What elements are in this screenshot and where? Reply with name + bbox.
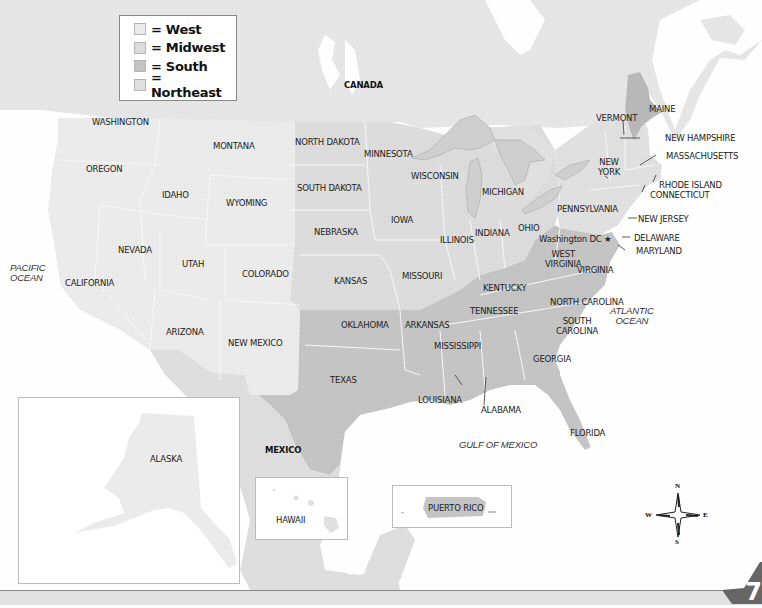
label-alaska: ALASKA (150, 454, 182, 464)
label-canada: CANADA (344, 80, 383, 90)
compass-n: N (675, 482, 680, 490)
label-new-york-line1: NEW (598, 157, 620, 167)
label-kansas: KANSAS (334, 276, 367, 286)
label-delaware: DELAWARE (634, 233, 680, 243)
legend-label: = West (151, 22, 201, 37)
label-virginia: VIRGINIA (577, 265, 613, 275)
label-missouri: MISSOURI (402, 271, 442, 281)
legend-swatch-midwest (134, 42, 146, 54)
label-south-carolina-line2: CAROLINA (556, 326, 598, 336)
label-vermont: VERMONT (596, 113, 637, 123)
label-iowa: IOWA (391, 215, 413, 225)
legend-swatch-south (134, 60, 146, 72)
label-rhode-island: RHODE ISLAND (659, 180, 722, 190)
label-north-carolina: NORTH CAROLINA (550, 297, 624, 307)
label-atlantic-ocean: ATLANTIC OCEAN (610, 306, 654, 326)
legend-swatch-west (134, 23, 146, 35)
compass-s: S (675, 538, 679, 546)
label-arkansas: ARKANSAS (405, 320, 449, 330)
alaska-shape (19, 398, 241, 585)
legend-item-midwest: = Midwest (134, 39, 236, 58)
label-alabama: ALABAMA (481, 405, 521, 415)
label-north-dakota: NORTH DAKOTA (295, 137, 360, 147)
label-oregon: OREGON (86, 164, 122, 174)
label-utah: UTAH (182, 259, 204, 269)
label-oklahoma: OKLAHOMA (341, 320, 389, 330)
label-south-carolina: SOUTH CAROLINA (556, 316, 598, 336)
label-georgia: GEORGIA (533, 354, 571, 364)
label-colorado: COLORADO (242, 269, 289, 279)
label-kentucky: KENTUCKY (483, 283, 527, 293)
legend-swatch-northeast (134, 79, 146, 91)
label-pacific-line2: OCEAN (10, 273, 45, 283)
label-new-mexico: NEW MEXICO (228, 338, 283, 348)
label-mississippi: MISSISSIPPI (434, 341, 481, 351)
label-west-virginia-line1: WEST (545, 249, 581, 259)
label-south-dakota: SOUTH DAKOTA (297, 183, 362, 193)
label-mexico: MEXICO (265, 445, 301, 455)
label-south-carolina-line1: SOUTH (556, 316, 598, 326)
label-nebraska: NEBRASKA (314, 227, 358, 237)
label-connecticut: CONNECTICUT (650, 190, 710, 200)
label-minnesota: MINNESOTA (364, 149, 413, 159)
label-texas: TEXAS (330, 375, 357, 385)
label-puerto-rico: PUERTO RICO (428, 503, 483, 513)
label-maryland: MARYLAND (636, 246, 682, 256)
label-illinois: ILLINOIS (440, 235, 474, 245)
label-washington-dc: Washington DC ★ (539, 234, 611, 244)
label-idaho: IDAHO (162, 190, 189, 200)
alaska-inset (18, 397, 240, 584)
label-tennessee: TENNESSEE (470, 306, 518, 316)
label-ohio: OHIO (518, 223, 539, 233)
label-atlantic-line2: OCEAN (610, 316, 654, 326)
label-pennsylvania: PENNSYLVANIA (557, 204, 618, 214)
label-gulf-of-mexico: GULF OF MEXICO (459, 440, 537, 450)
hawaii-inset (255, 477, 348, 540)
bottom-band (0, 590, 762, 605)
label-wyoming: WYOMING (226, 198, 267, 208)
label-nevada: NEVADA (118, 245, 152, 255)
compass-w: W (645, 511, 652, 519)
label-louisiana: LOUISIANA (418, 395, 462, 405)
label-wisconsin: WISCONSIN (411, 171, 459, 181)
compass-icon (648, 485, 708, 545)
label-new-jersey: NEW JERSEY (638, 214, 689, 224)
page-number: 7 (745, 580, 762, 604)
compass-e: E (703, 511, 708, 519)
label-arizona: ARIZONA (166, 327, 204, 337)
label-california: CALIFORNIA (65, 278, 114, 288)
label-montana: MONTANA (213, 141, 255, 151)
legend-label: = Northeast (151, 70, 236, 100)
hawaii-shape (256, 478, 349, 541)
compass-rose: N S E W (648, 485, 708, 545)
label-maine: MAINE (649, 104, 675, 114)
label-pacific-ocean: PACIFIC OCEAN (10, 263, 45, 283)
label-new-hampshire: NEW HAMPSHIRE (665, 133, 735, 143)
label-florida: FLORIDA (570, 428, 605, 438)
label-michigan: MICHIGAN (482, 187, 524, 197)
label-massachusetts: MASSACHUSETTS (666, 151, 738, 161)
legend-item-west: = West (134, 20, 236, 39)
legend-item-northeast: = Northeast (134, 76, 236, 95)
page-corner-star: 7 (722, 562, 762, 604)
label-hawaii: HAWAII (276, 515, 305, 525)
legend-label: = Midwest (151, 40, 225, 55)
label-new-york: NEW YORK (598, 157, 620, 177)
label-indiana: INDIANA (475, 228, 510, 238)
label-west-virginia: WEST VIRGINIA (545, 249, 581, 269)
label-west-virginia-line2: VIRGINIA (545, 259, 581, 269)
label-washington: WASHINGTON (92, 117, 149, 127)
label-new-york-line2: YORK (598, 167, 620, 177)
legend: = West = Midwest = South = Northeast (119, 15, 237, 101)
